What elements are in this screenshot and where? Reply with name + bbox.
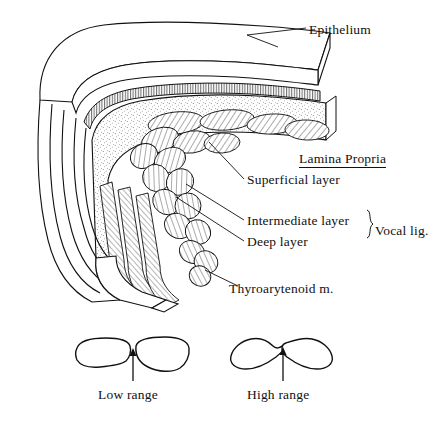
inset-low-range: [76, 337, 190, 381]
label-epithelium: Epithelium: [309, 22, 371, 38]
figure-drawing: [0, 0, 444, 423]
label-thyroarytenoid: Thyroarytenoid m.: [229, 281, 334, 297]
label-superficial-layer: Superficial layer: [247, 172, 340, 188]
label-deep-layer: Deep layer: [247, 234, 308, 250]
caption-low-range: Low range: [98, 387, 158, 403]
label-lamina-propria: Lamina Propria: [299, 151, 386, 168]
label-intermediate-layer: Intermediate layer: [247, 213, 349, 229]
label-vocal-ligament: Vocal lig.: [375, 223, 429, 239]
caption-high-range: High range: [247, 387, 309, 403]
anatomy-figure: Epithelium Lamina Propria Superficial la…: [0, 0, 444, 423]
vocal-ligament-brace: [367, 210, 373, 238]
inset-high-range: [231, 338, 333, 381]
